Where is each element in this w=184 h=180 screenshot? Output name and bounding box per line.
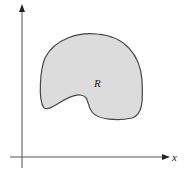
x-axis-label: x <box>171 151 177 163</box>
x-axis-arrow-icon <box>162 154 170 160</box>
y-axis-arrow-icon <box>19 4 25 12</box>
region-label: R <box>93 77 101 89</box>
region-r <box>40 34 142 120</box>
region-diagram: x R <box>0 0 184 180</box>
